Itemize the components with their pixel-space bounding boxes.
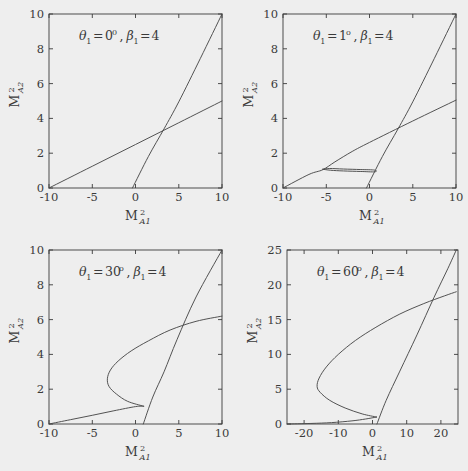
y-tick-label: 20	[267, 278, 282, 292]
y-tick-label: 2	[37, 382, 44, 396]
svg-text:,: ,	[365, 264, 369, 279]
y-tick-label: 5	[275, 382, 282, 396]
svg-text:A2: A2	[249, 82, 259, 94]
svg-text:1: 1	[141, 273, 146, 282]
y-tick-label: 25	[267, 243, 282, 257]
x-tick-label: 0	[366, 190, 373, 204]
svg-text:,: ,	[127, 264, 131, 279]
svg-text:1: 1	[368, 37, 373, 46]
svg-text:1: 1	[86, 37, 91, 46]
y-tick-label: 6	[37, 313, 44, 327]
svg-text:=: =	[147, 264, 157, 279]
panel-annotation: θ1=1o,β1=4	[313, 28, 394, 46]
x-tick-label: 10	[449, 190, 464, 204]
y-tick-label: 0	[271, 181, 278, 195]
svg-text:A1: A1	[139, 216, 151, 226]
y-tick-label: 10	[29, 7, 44, 21]
svg-text:=: =	[374, 28, 384, 43]
svg-text:β: β	[360, 28, 368, 43]
x-tick-label: -5	[87, 426, 98, 440]
x-tick-label: 20	[434, 426, 449, 440]
svg-text:=: =	[140, 28, 150, 43]
y-tick-label: 0	[37, 417, 44, 431]
svg-text:0: 0	[112, 28, 117, 37]
svg-text:o: o	[346, 28, 351, 37]
x-tick-label: 0	[132, 190, 139, 204]
plot-panel-top-right: -10-505100246810θ1=1o,β1=4M2A1M2A2	[234, 0, 468, 236]
x-tick-label: -10	[329, 426, 348, 440]
y-tick-label: 2	[271, 146, 278, 160]
x-tick-label: 5	[409, 190, 416, 204]
svg-text:4: 4	[386, 28, 394, 43]
svg-text:1: 1	[320, 37, 325, 46]
y-tick-label: 4	[37, 347, 44, 361]
y-tick-label: 4	[271, 111, 278, 125]
svg-text:β: β	[133, 264, 141, 279]
y-tick-label: 0	[275, 417, 282, 431]
series-shallow-branch	[283, 100, 456, 188]
x-tick-label: -5	[87, 190, 98, 204]
svg-text:4: 4	[397, 264, 405, 279]
svg-text:1: 1	[324, 273, 329, 282]
x-axis-label: M2A1	[125, 443, 151, 462]
svg-text:A2: A2	[15, 82, 25, 94]
series-detached-bubble	[323, 169, 377, 172]
y-axis-label: M2A2	[6, 318, 25, 344]
y-tick-label: 15	[267, 313, 282, 327]
svg-text:M: M	[362, 444, 375, 459]
x-axis-label: M2A1	[359, 207, 385, 226]
svg-text:A1: A1	[376, 452, 388, 462]
svg-text:M: M	[7, 330, 22, 343]
series-lower-branch	[49, 406, 144, 424]
y-axis-label: M2A2	[240, 82, 259, 108]
svg-text:=: =	[327, 28, 337, 43]
svg-text:β: β	[126, 28, 134, 43]
x-tick-label: -5	[321, 190, 332, 204]
y-tick-label: 4	[37, 111, 44, 125]
svg-text:A2: A2	[253, 318, 263, 330]
svg-text:4: 4	[152, 28, 160, 43]
y-tick-label: 2	[37, 146, 44, 160]
x-axis-label: M2A1	[125, 207, 151, 226]
x-tick-label: 0	[132, 426, 139, 440]
y-tick-label: 8	[37, 42, 44, 56]
x-tick-label: 0	[369, 426, 376, 440]
svg-text:=: =	[93, 264, 103, 279]
svg-text:M: M	[7, 94, 22, 107]
plot-panel-top-left: -10-505100246810θ1=00,β1=4M2A1M2A2	[0, 0, 234, 236]
y-axis-label: M2A2	[244, 318, 263, 344]
svg-text:o: o	[357, 264, 362, 273]
series-shallow-branch	[49, 101, 222, 188]
svg-text:=: =	[93, 28, 103, 43]
svg-text:1: 1	[134, 37, 139, 46]
svg-text:,: ,	[354, 28, 358, 43]
svg-text:M: M	[241, 94, 256, 107]
series-lower-branch	[287, 417, 377, 424]
svg-text:=: =	[331, 264, 341, 279]
svg-text:M: M	[245, 330, 260, 343]
y-tick-label: 10	[267, 347, 282, 361]
svg-text:o: o	[119, 264, 124, 273]
x-tick-label: 10	[399, 426, 414, 440]
figure-panel-grid: -10-505100246810θ1=00,β1=4M2A1M2A2-10-50…	[0, 0, 468, 471]
svg-text:4: 4	[159, 264, 167, 279]
series-c-shaped-branch	[107, 316, 222, 406]
panel-annotation: θ1=60o,β1=4	[317, 264, 405, 282]
y-tick-label: 0	[37, 181, 44, 195]
x-tick-label: -20	[295, 426, 314, 440]
y-tick-label: 6	[37, 77, 44, 91]
x-tick-label: 5	[175, 190, 182, 204]
x-tick-label: 10	[215, 426, 230, 440]
svg-text:1: 1	[86, 273, 91, 282]
svg-text:=: =	[385, 264, 395, 279]
svg-text:M: M	[125, 208, 138, 223]
svg-text:A1: A1	[373, 216, 385, 226]
plot-panel-bottom-right: -20-10010200510152025θ1=60o,β1=4M2A1M2A2	[234, 236, 468, 471]
y-tick-label: 8	[271, 42, 278, 56]
svg-text:A2: A2	[15, 318, 25, 330]
y-tick-label: 10	[263, 7, 278, 21]
panel-annotation: θ1=30o,β1=4	[79, 264, 167, 282]
y-tick-label: 6	[271, 77, 278, 91]
svg-text:A1: A1	[139, 452, 151, 462]
plot-panel-bottom-left: -10-505100246810θ1=30o,β1=4M2A1M2A2	[0, 236, 234, 471]
